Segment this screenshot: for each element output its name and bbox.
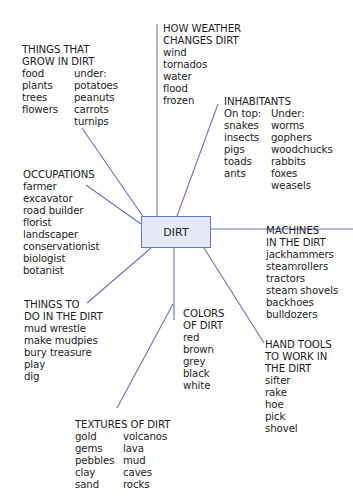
list-item: landscaper (23, 229, 99, 241)
list-item: steam shovels (266, 285, 338, 297)
topic-things-to-do: THINGS TO DO IN THE DIRT mud wrestle mak… (24, 299, 103, 383)
list-item: pigs (224, 144, 271, 156)
topic-grow: THINGS THAT GROW IN DIRT food plants tre… (22, 44, 118, 128)
list-item: ants (224, 168, 271, 180)
list-item: volcanos (123, 431, 167, 443)
list-item: turnips (74, 116, 118, 128)
list-item: sand (75, 479, 123, 491)
list-item: toads (224, 156, 271, 168)
list-item: snakes (224, 120, 271, 132)
list-item: white (183, 380, 224, 392)
list-item: dig (24, 371, 103, 383)
list-item: peanuts (74, 92, 118, 104)
list-item: wind (163, 47, 241, 59)
list-item: jackhammers (266, 249, 338, 261)
list-item: flowers (22, 104, 74, 116)
list-item: mud (123, 455, 167, 467)
list-item: caves (123, 467, 167, 479)
list-item: rake (265, 387, 332, 399)
list-item: shovel (265, 423, 332, 435)
list-item: biologist (23, 253, 99, 265)
topic-title: TO WORK IN (265, 351, 332, 363)
list-item: make mudpies (24, 335, 103, 347)
list-item: foxes (271, 168, 333, 180)
list-item: florist (23, 217, 99, 229)
list-item: gophers (271, 132, 333, 144)
list-item: under: (74, 68, 118, 80)
list-item: conservationist (23, 241, 99, 253)
topic-title: MACHINES (266, 225, 338, 237)
topic-title: COLORS (183, 308, 224, 320)
topic-machines: MACHINES IN THE DIRT jackhammers steamro… (266, 225, 338, 321)
list-item: potatoes (74, 80, 118, 92)
list-item: tornados (163, 59, 241, 71)
list-item: tractors (266, 273, 338, 285)
topic-textures: TEXTURES OF DIRT gold gems pebbles clay … (75, 419, 170, 491)
list-item: pick (265, 411, 332, 423)
list-item: play (24, 359, 103, 371)
list-item: water (163, 71, 241, 83)
topic-title: HOW WEATHER (163, 23, 241, 35)
topic-title: CHANGES DIRT (163, 35, 241, 47)
list-item: excavator (23, 193, 99, 205)
list-item: black (183, 368, 224, 380)
topic-colors: COLORS OF DIRT red brown grey black whit… (183, 308, 224, 392)
list-item: steamrollers (266, 261, 338, 273)
topic-title: THINGS THAT (22, 44, 118, 56)
list-item: clay (75, 467, 123, 479)
list-item: mud wrestle (24, 323, 103, 335)
list-item: backhoes (266, 297, 338, 309)
topic-title: INHABITANTS (224, 96, 333, 108)
topic-title: HAND TOOLS (265, 339, 332, 351)
topic-title: THINGS TO (24, 299, 103, 311)
list-item: carrots (74, 104, 118, 116)
list-item: farmer (23, 181, 99, 193)
list-item: trees (22, 92, 74, 104)
list-item: On top: (224, 108, 271, 120)
list-item: grey (183, 356, 224, 368)
list-item: woodchucks (271, 144, 333, 156)
connector-textures (117, 304, 173, 408)
list-item: bury treasure (24, 347, 103, 359)
topic-title: OF DIRT (183, 320, 224, 332)
list-item: rabbits (271, 156, 333, 168)
list-item: food (22, 68, 74, 80)
list-item: gold (75, 431, 123, 443)
center-label: DIRT (163, 226, 188, 239)
list-item: hoe (265, 399, 332, 411)
topic-title: THE DIRT (265, 363, 332, 375)
list-item: Under: (271, 108, 333, 120)
connector-inhabitants (177, 104, 218, 216)
topic-weather: HOW WEATHER CHANGES DIRT wind tornados w… (163, 23, 241, 107)
list-item: red (183, 332, 224, 344)
topic-title: DO IN THE DIRT (24, 311, 103, 323)
list-item: insects (224, 132, 271, 144)
list-item: sifter (265, 375, 332, 387)
topic-title: IN THE DIRT (266, 237, 338, 249)
center-node: DIRT (141, 216, 211, 248)
list-item: lava (123, 443, 167, 455)
list-item: road builder (23, 205, 99, 217)
list-item: worms (271, 120, 333, 132)
topic-title: OCCUPATIONS (23, 169, 99, 181)
list-item: pebbles (75, 455, 123, 467)
list-item: flood (163, 83, 241, 95)
topic-title: TEXTURES OF DIRT (75, 419, 170, 431)
topic-hand-tools: HAND TOOLS TO WORK IN THE DIRT sifter ra… (265, 339, 332, 435)
topic-occupations: OCCUPATIONS farmer excavator road builde… (23, 169, 99, 277)
list-item: bulldozers (266, 309, 338, 321)
list-item: gems (75, 443, 123, 455)
list-item: brown (183, 344, 224, 356)
topic-inhabitants: INHABITANTS On top: snakes insects pigs … (224, 96, 333, 192)
list-item: weasels (271, 180, 333, 192)
topic-title: GROW IN DIRT (22, 56, 118, 68)
list-item: plants (22, 80, 74, 92)
list-item: botanist (23, 265, 99, 277)
list-item: rocks (123, 479, 167, 491)
